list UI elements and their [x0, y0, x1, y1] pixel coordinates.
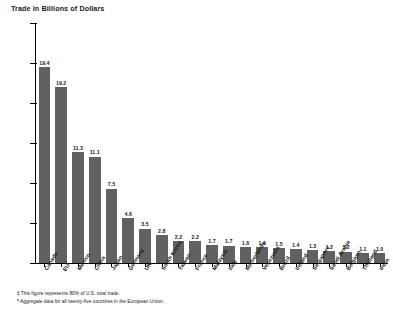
bar-value-label: 19.2	[56, 80, 66, 86]
bar[interactable]	[106, 189, 118, 263]
bar-slot: 2.2	[173, 23, 185, 263]
bar-slot: 2.2	[189, 23, 201, 263]
bar-value-label: 3.5	[141, 221, 148, 227]
footnote-text: Aggregate data for all twenty-five count…	[20, 299, 164, 304]
bar-value-label: 1.7	[225, 238, 232, 244]
bar-slot: 2.8	[156, 23, 168, 263]
footnotes: ‡This figure represents 80% of U.S. tota…	[17, 290, 377, 305]
bar-slot: 1.6	[256, 23, 268, 263]
bar-slot: 1.3	[307, 23, 319, 263]
bar-value-label: 19.4	[39, 60, 49, 66]
footnote-mark: *	[17, 299, 19, 304]
bar-value-label: 1.7	[208, 238, 215, 244]
bar-slot: 19.2	[55, 23, 67, 263]
bars-layer: 19.419.211.311.17.54.63.52.82.22.21.71.7…	[36, 23, 388, 263]
bar-value-label: 7.5	[108, 181, 115, 187]
bar[interactable]	[72, 152, 84, 263]
bar[interactable]	[39, 67, 51, 263]
bar-value-label: 1.4	[292, 242, 299, 248]
bar-slot: 1.2	[340, 23, 352, 263]
bar-value-label: 1.3	[309, 243, 316, 249]
bar-value-label: 1.6	[242, 240, 249, 246]
bar-slot: 1.7	[206, 23, 218, 263]
y-axis-tick-label-wrap: 0	[0, 263, 36, 264]
bar-slot: 11.1	[89, 23, 101, 263]
footnote-text: This figure represents 80% of U.S. total…	[21, 291, 120, 296]
footnote-item: *Aggregate data for all twenty-five coun…	[17, 298, 377, 306]
bar-value-label: 11.3	[73, 145, 83, 151]
y-axis-tick-label-wrap: 600	[0, 23, 36, 24]
bar-value-label: 2.8	[158, 228, 165, 234]
bar-slot: 1.6	[240, 23, 252, 263]
bar-slot: 1.1	[357, 23, 369, 263]
bar-slot: 19.4	[39, 23, 51, 263]
bar-slot: 1.4	[290, 23, 302, 263]
bar-slot: 11.3	[72, 23, 84, 263]
bar-chart: Trade in Billions of Dollars 60050040030…	[0, 0, 393, 313]
bar-slot: 3.5	[139, 23, 151, 263]
bar-slot: 1.5	[273, 23, 285, 263]
bar[interactable]	[55, 87, 67, 263]
y-axis-tick-label-wrap: 300	[0, 143, 36, 144]
bar-value-label: 2.2	[175, 234, 182, 240]
bar-slot: 1.7	[223, 23, 235, 263]
y-axis-tick-label-wrap: 500	[0, 63, 36, 64]
bar-slot: 1.0	[374, 23, 386, 263]
footnote-item: ‡This figure represents 80% of U.S. tota…	[17, 290, 377, 298]
y-axis-tick-label-wrap: 100	[0, 223, 36, 224]
bar[interactable]	[122, 218, 134, 263]
bar-slot: 7.5	[106, 23, 118, 263]
chart-title: Trade in Billions of Dollars	[11, 4, 104, 13]
bar-value-label: 11.1	[90, 149, 100, 155]
footnote-mark: ‡	[17, 291, 20, 296]
bar[interactable]	[89, 157, 101, 263]
bar-value-label: 2.2	[192, 234, 199, 240]
bar-slot: 1.2	[323, 23, 335, 263]
y-axis-tick-label-wrap: 400	[0, 103, 36, 104]
y-axis-tick-label-wrap: 200	[0, 183, 36, 184]
bar-value-label: 4.6	[124, 211, 131, 217]
bar[interactable]	[139, 229, 151, 263]
bar-slot: 4.6	[122, 23, 134, 263]
